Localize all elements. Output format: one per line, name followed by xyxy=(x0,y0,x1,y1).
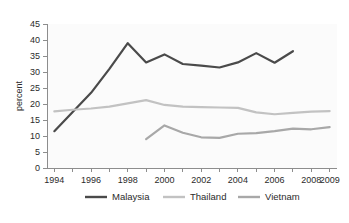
legend-label-vietnam: Vietnam xyxy=(265,191,300,202)
plot-background xyxy=(47,24,337,168)
x-tick-label: 2000 xyxy=(154,175,174,185)
legend-label-thailand: Thailand xyxy=(190,191,226,202)
y-tick-label: 30 xyxy=(30,67,40,77)
line-chart-svg: 051015202530354045 199419961998200020022… xyxy=(0,0,349,223)
x-tick-label: 2004 xyxy=(228,175,248,185)
y-tick-label: 45 xyxy=(30,19,40,29)
plot-wrapper: 051015202530354045 199419961998200020022… xyxy=(0,0,349,223)
x-tick-label: 1994 xyxy=(44,175,64,185)
chart-legend: MalaysiaThailandVietnam xyxy=(85,191,300,202)
y-tick-label: 35 xyxy=(30,51,40,61)
x-tick-label: 2009 xyxy=(320,175,340,185)
legend-label-malaysia: Malaysia xyxy=(112,191,150,202)
y-tick-label: 40 xyxy=(30,35,40,45)
x-tick-label: 1996 xyxy=(81,175,101,185)
x-tick-label: 2002 xyxy=(191,175,211,185)
y-tick-label: 5 xyxy=(35,147,40,157)
chart-figure: 051015202530354045 199419961998200020022… xyxy=(0,0,349,223)
x-tick-label: 2006 xyxy=(265,175,285,185)
y-tick-label: 0 xyxy=(35,163,40,173)
x-axis-ticks: 199419961998200020022004200620082009 xyxy=(44,168,339,185)
y-tick-label: 25 xyxy=(30,83,40,93)
x-tick-label: 1998 xyxy=(118,175,138,185)
y-tick-label: 15 xyxy=(30,115,40,125)
y-tick-label: 10 xyxy=(30,131,40,141)
x-tick-label: 2008 xyxy=(301,175,321,185)
y-axis-ticks: 051015202530354045 xyxy=(30,19,47,173)
y-tick-label: 20 xyxy=(30,99,40,109)
y-axis-title: percent xyxy=(14,80,24,111)
